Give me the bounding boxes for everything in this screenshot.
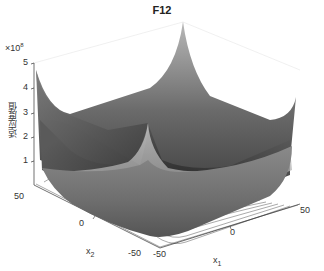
z-multiplier-base: ×10 <box>5 43 20 53</box>
z-axis <box>31 63 34 185</box>
x2-tick-0: 0 <box>79 218 84 228</box>
x1-tick-50: 50 <box>300 205 310 215</box>
x1-label-sub: 1 <box>218 260 222 267</box>
x2-label-sub: 2 <box>91 251 95 258</box>
chart-title: F12 <box>0 4 324 16</box>
z-tick-3: 3 <box>23 107 28 117</box>
x1-axis-label: x1 <box>213 255 221 265</box>
z-tick-5: 5 <box>23 57 28 67</box>
x1-tick-m50: -50 <box>153 249 166 259</box>
z-tick-2: 2 <box>23 131 28 141</box>
x2-axis-label: x2 <box>86 246 94 256</box>
z-multiplier-exp: 8 <box>20 42 23 48</box>
z-tick-4: 4 <box>23 82 28 92</box>
z-multiplier: ×108 <box>5 43 24 53</box>
surface-plot <box>0 0 324 271</box>
x1-tick-0: 0 <box>230 227 235 237</box>
x2-tick-50: 50 <box>14 191 24 201</box>
x2-label-main: x <box>86 246 91 256</box>
z-axis-label: 适应度值 <box>5 102 18 138</box>
x2-tick-m50: -50 <box>128 248 141 258</box>
x1-label-main: x <box>213 255 218 265</box>
z-tick-1: 1 <box>23 155 28 165</box>
